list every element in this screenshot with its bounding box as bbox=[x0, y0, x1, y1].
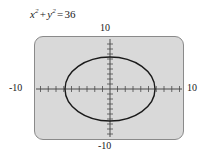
axis-label-right: 10 bbox=[187, 82, 197, 93]
axis-label-top: 10 bbox=[100, 22, 110, 33]
axis-label-left: -10 bbox=[9, 82, 22, 93]
figure-container: x2+y2=36 bbox=[0, 0, 208, 159]
graphing-calculator-screen bbox=[34, 36, 184, 140]
equation-value: 36 bbox=[64, 8, 75, 20]
equation-caption: x2+y2=36 bbox=[30, 7, 76, 20]
plot-area bbox=[34, 36, 184, 140]
axis-label-bottom: -10 bbox=[98, 140, 111, 151]
equation-plus-operator: + bbox=[39, 8, 47, 20]
